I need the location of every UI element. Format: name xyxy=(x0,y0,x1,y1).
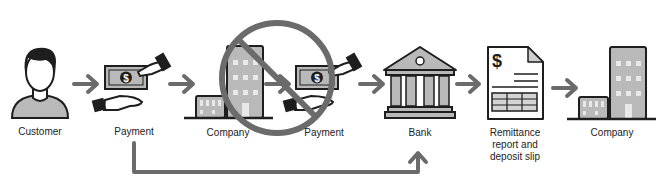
label-payment-crossed: Payment xyxy=(294,127,354,139)
label-remittance-line-1: Remittance xyxy=(480,127,550,139)
svg-text:$: $ xyxy=(492,51,502,71)
arrow-icon xyxy=(170,76,193,92)
document-icon: $ xyxy=(488,47,543,119)
arrow-icon xyxy=(360,76,383,92)
diagram-canvas: $ xyxy=(0,0,666,183)
label-customer: Customer xyxy=(10,126,70,138)
bank-icon xyxy=(384,47,456,118)
label-remittance: Remittance report and deposit slip xyxy=(480,127,550,163)
label-remittance-line-3: deposit slip xyxy=(480,151,550,163)
building-icon xyxy=(567,47,656,119)
label-bank: Bank xyxy=(390,127,450,139)
label-company-final: Company xyxy=(582,127,642,139)
label-company: Company xyxy=(198,127,258,139)
cash-hand-icon xyxy=(92,53,172,113)
arrow-icon xyxy=(553,80,576,96)
arrow-icon xyxy=(457,76,479,92)
label-payment: Payment xyxy=(104,126,164,138)
flow-diagram: $ xyxy=(0,0,666,183)
bypass-arrow-icon xyxy=(134,143,426,172)
arrow-icon xyxy=(74,76,97,92)
person-icon xyxy=(12,48,68,118)
label-remittance-line-2: report and xyxy=(480,139,550,151)
